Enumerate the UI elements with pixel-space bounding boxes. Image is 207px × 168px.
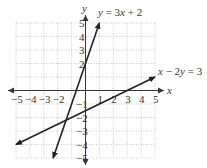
y-tick-label: 3 bbox=[79, 44, 85, 56]
y-tick-label: −4 bbox=[76, 139, 88, 151]
y-tick-label: −3 bbox=[76, 125, 88, 137]
x-axis-label: x bbox=[166, 84, 172, 96]
x-tick-label: −5 bbox=[11, 93, 23, 105]
x-tick-label: −4 bbox=[25, 93, 37, 105]
x-tick-label: −3 bbox=[39, 93, 51, 105]
y-axis-label: y bbox=[81, 2, 87, 14]
coordinate-plane: −5−4−3−212345 5432−1−2−3−4−5 x y y = 3x … bbox=[0, 0, 207, 168]
y-tick-label: −1 bbox=[76, 98, 88, 110]
line1-label: y = 3x + 2 bbox=[97, 6, 142, 18]
x-tick-label: 3 bbox=[125, 93, 131, 105]
y-tick-label: 4 bbox=[79, 31, 85, 43]
x-tick-label: 2 bbox=[111, 93, 117, 105]
y-tick-label: 5 bbox=[79, 17, 85, 29]
y-tick-label: −5 bbox=[76, 152, 88, 164]
line2-label: x − 2y = 3 bbox=[157, 65, 203, 77]
x-tick-label: −2 bbox=[53, 93, 65, 105]
x-tick-label: 5 bbox=[153, 93, 159, 105]
x-tick-label: 4 bbox=[139, 93, 145, 105]
